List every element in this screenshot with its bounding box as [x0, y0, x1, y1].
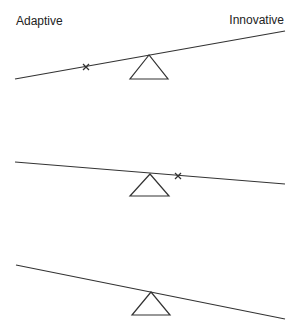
seesaw-2	[15, 162, 285, 196]
seesaw-1	[15, 31, 285, 79]
fulcrum-triangle	[130, 174, 169, 196]
fulcrum-triangle	[130, 55, 168, 79]
seesaw-beam	[15, 162, 285, 184]
seesaw-diagram	[0, 0, 304, 330]
seesaw-3	[16, 265, 285, 319]
fulcrum-triangle	[132, 292, 170, 315]
seesaw-beam	[15, 31, 285, 79]
